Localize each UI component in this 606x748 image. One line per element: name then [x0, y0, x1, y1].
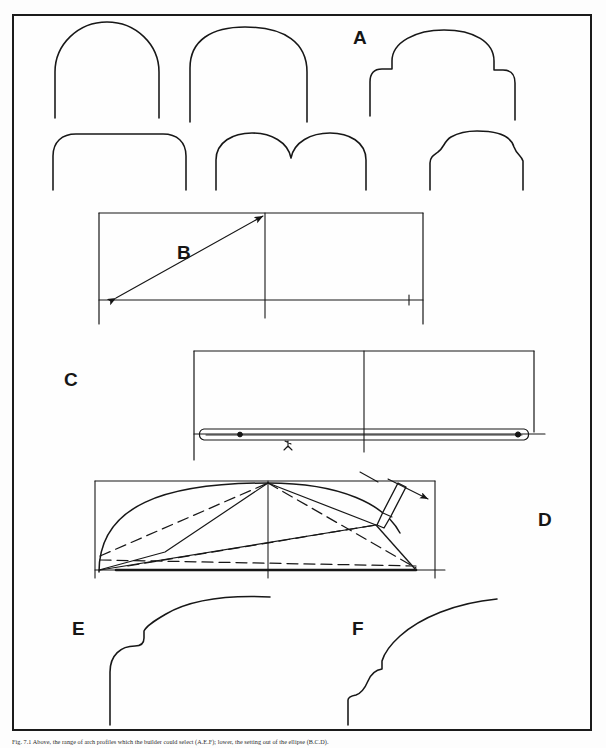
arch-profile-stilted	[190, 27, 307, 122]
figure-caption: Fig. 7.1 Above, the range of arch profil…	[12, 737, 594, 746]
panel-c-construction	[194, 351, 545, 460]
arch-profile-round	[55, 22, 159, 118]
arch-profile-twin-lobe	[216, 133, 366, 190]
panel-label-a: A	[353, 28, 367, 47]
panel-b-construction	[99, 213, 423, 324]
panel-label-e: E	[72, 619, 85, 638]
arch-profile-shouldered	[370, 30, 515, 120]
panel-label-b: B	[177, 243, 191, 262]
panel-label-d: D	[538, 510, 552, 529]
panel-label-c: C	[64, 370, 78, 389]
figure-drawing	[0, 0, 606, 748]
arch-profile-flat-rounded	[53, 134, 186, 190]
panel-d-dashed-lines	[100, 483, 416, 568]
trammel-index-mark	[284, 441, 292, 450]
arch-profile-e	[110, 597, 270, 725]
figure-page: A B C D E F Fig. 7.1 Above, the range of…	[0, 0, 606, 748]
arch-profile-ogee-shouldered	[430, 131, 523, 190]
arch-profile-f	[348, 599, 497, 725]
panel-label-f: F	[352, 619, 364, 638]
pencil-tool	[360, 472, 428, 528]
